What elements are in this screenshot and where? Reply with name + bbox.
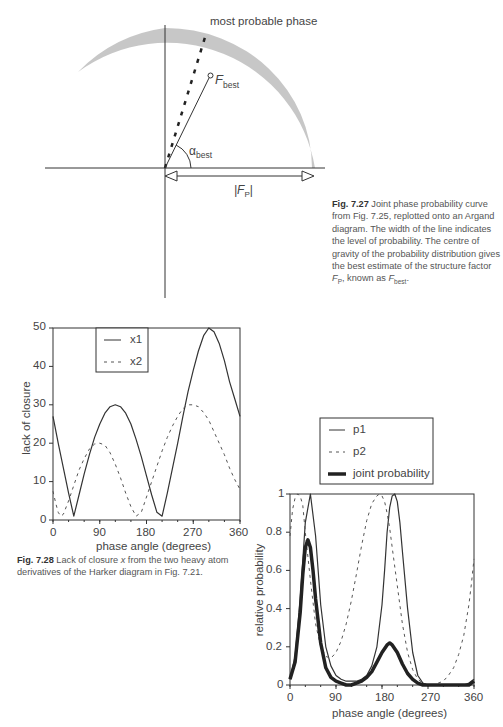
relative-probability-chart [0, 0, 503, 727]
c2-ytick-0: 0 [277, 678, 283, 690]
c2-yaxis-label: relative probability [253, 535, 265, 645]
legend-joint-label: joint probability [353, 467, 430, 479]
legend-p2-label: p2 [353, 445, 366, 457]
c2-ytick-0-2: 0.2 [266, 640, 282, 652]
c2-ytick-0-8: 0.8 [266, 525, 282, 537]
series-p2 [290, 494, 474, 685]
c2-ytick-0-6: 0.6 [266, 563, 282, 575]
series-p1 [290, 494, 474, 685]
c2-xtick-180: 180 [375, 691, 394, 703]
c2-ytick-0-4: 0.4 [266, 602, 282, 614]
legend-p1-label: p1 [353, 423, 366, 435]
c2-xtick-0: 0 [287, 691, 293, 703]
c2-xtick-360: 360 [464, 691, 483, 703]
plot-frame [290, 494, 474, 685]
c2-xaxis-label: phase angle (degrees) [332, 707, 447, 719]
c2-xtick-90: 90 [329, 691, 342, 703]
c2-xtick-270: 270 [421, 691, 440, 703]
c2-ytick-1: 1 [278, 487, 284, 499]
series-lines [290, 494, 474, 685]
